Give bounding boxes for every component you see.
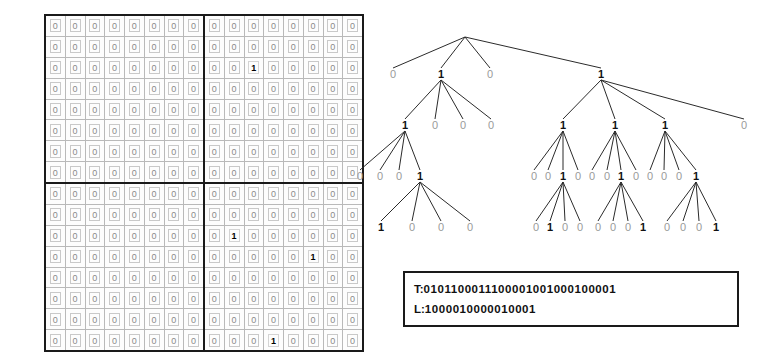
matrix-cell-value: 0 <box>308 166 319 179</box>
matrix-cell-zero: 0 <box>244 36 264 57</box>
matrix-cell-zero: 0 <box>264 267 284 288</box>
matrix-cell-zero: 0 <box>323 246 343 267</box>
matrix-cell-value: 0 <box>188 40 199 53</box>
matrix-cell-zero: 0 <box>85 204 105 225</box>
l-bitstring-row: L:1000010000010001 <box>414 299 728 319</box>
matrix-cell-zero: 0 <box>323 36 343 57</box>
matrix-cell-zero: 0 <box>45 183 65 204</box>
matrix-cell-zero: 0 <box>244 141 264 162</box>
matrix-cell-zero: 0 <box>105 267 125 288</box>
matrix-cell-zero: 0 <box>184 246 204 267</box>
matrix-cell-value: 0 <box>209 292 220 305</box>
matrix-cell-value: 0 <box>327 40 338 53</box>
matrix-cell-value: 0 <box>109 208 120 221</box>
tree-edge <box>441 80 463 119</box>
matrix-cell-zero: 0 <box>164 15 184 36</box>
matrix-cell-zero: 0 <box>303 183 323 204</box>
matrix-cell-value: 0 <box>209 82 220 95</box>
matrix-cell-value: 0 <box>70 166 81 179</box>
matrix-cell-zero: 0 <box>323 78 343 99</box>
matrix-cell-value: 0 <box>308 208 319 221</box>
matrix-cell-value: 0 <box>248 124 259 137</box>
matrix-cell-zero: 0 <box>303 225 323 246</box>
matrix-cell-zero: 0 <box>264 246 284 267</box>
matrix-cell-value: 0 <box>209 19 220 32</box>
matrix-cell-zero: 0 <box>323 183 343 204</box>
matrix-cell-zero: 0 <box>204 78 224 99</box>
matrix-cell-zero: 0 <box>284 267 304 288</box>
matrix-cell-value: 0 <box>209 40 220 53</box>
matrix-cell-zero: 0 <box>284 78 304 99</box>
matrix-cell-zero: 0 <box>244 183 264 204</box>
matrix-cell-zero: 0 <box>284 246 304 267</box>
matrix-cell-value: 0 <box>248 250 259 263</box>
matrix-cell-zero: 0 <box>164 288 184 309</box>
matrix-cell-zero: 0 <box>105 288 125 309</box>
matrix-row: 0000000000000000 <box>45 36 363 57</box>
matrix-cell-zero: 0 <box>264 57 284 78</box>
matrix-cell-value: 0 <box>129 82 140 95</box>
matrix-cell-value: 0 <box>288 208 299 221</box>
matrix-cell-zero: 0 <box>164 162 184 183</box>
matrix-cell-zero: 0 <box>264 15 284 36</box>
matrix-cell-zero: 0 <box>323 204 343 225</box>
matrix-cell-zero: 0 <box>343 267 363 288</box>
matrix-cell-zero: 0 <box>125 162 145 183</box>
matrix-cell-value: 0 <box>229 166 240 179</box>
matrix-cell-value: 0 <box>288 124 299 137</box>
matrix-cell-zero: 0 <box>45 141 65 162</box>
matrix-cell-value: 0 <box>70 40 81 53</box>
tree-edge <box>601 80 615 119</box>
matrix-cell-value: 0 <box>168 271 179 284</box>
matrix-cell-zero: 0 <box>204 309 224 330</box>
matrix-cell-zero: 0 <box>303 330 323 351</box>
matrix-cell-zero: 0 <box>85 330 105 351</box>
matrix-cell-value: 0 <box>327 292 338 305</box>
matrix-cell-zero: 0 <box>164 309 184 330</box>
tree-edge <box>360 131 405 170</box>
matrix-cell-value: 0 <box>109 19 120 32</box>
matrix-cell-value: 0 <box>109 250 120 263</box>
matrix-cell-value: 0 <box>50 124 61 137</box>
matrix-cell-zero: 0 <box>144 36 164 57</box>
matrix-cell-value: 0 <box>268 313 279 326</box>
matrix-cell-value: 0 <box>268 292 279 305</box>
matrix-row: 0000000000000000 <box>45 99 363 120</box>
matrix-cell-value: 0 <box>209 229 220 242</box>
matrix-cell-value: 0 <box>308 187 319 200</box>
matrix-cell-value: 0 <box>70 271 81 284</box>
matrix-row: 0000000001000000 <box>45 225 363 246</box>
matrix-cell-value: 0 <box>109 40 120 53</box>
matrix-cell-zero: 0 <box>65 204 85 225</box>
matrix-cell-value: 0 <box>149 187 160 200</box>
matrix-cell-value: 0 <box>308 334 319 347</box>
tree-node-zero: 0 <box>390 69 396 80</box>
matrix-cell-value: 0 <box>188 229 199 242</box>
matrix-cell-zero: 0 <box>184 288 204 309</box>
matrix-cell-value: 0 <box>129 271 140 284</box>
matrix-cell-value: 0 <box>209 250 220 263</box>
matrix-cell-zero: 0 <box>284 57 304 78</box>
matrix-cell-zero: 0 <box>204 15 224 36</box>
matrix-cell-value: 0 <box>109 334 120 347</box>
matrix-cell-value: 0 <box>50 313 61 326</box>
matrix-cell-zero: 0 <box>164 204 184 225</box>
tree-edge <box>598 182 621 221</box>
matrix-cell-value: 0 <box>288 250 299 263</box>
matrix-cell-value: 0 <box>89 187 100 200</box>
matrix-cell-value: 0 <box>248 292 259 305</box>
matrix-cell-zero: 0 <box>184 99 204 120</box>
matrix-cell-value: 0 <box>129 313 140 326</box>
tree-edge <box>548 131 563 170</box>
matrix-cell-value: 0 <box>288 313 299 326</box>
matrix-cell-zero: 0 <box>65 15 85 36</box>
matrix-cell-value: 0 <box>50 292 61 305</box>
matrix-cell-value: 0 <box>149 229 160 242</box>
matrix-cell-value: 0 <box>229 334 240 347</box>
matrix-cell-value: 0 <box>327 124 338 137</box>
matrix-cell-value: 0 <box>209 61 220 74</box>
matrix-cell-value: 0 <box>168 145 179 158</box>
matrix-cell-value: 0 <box>129 292 140 305</box>
matrix-cell-zero: 0 <box>323 57 343 78</box>
matrix-cell-value: 0 <box>288 166 299 179</box>
